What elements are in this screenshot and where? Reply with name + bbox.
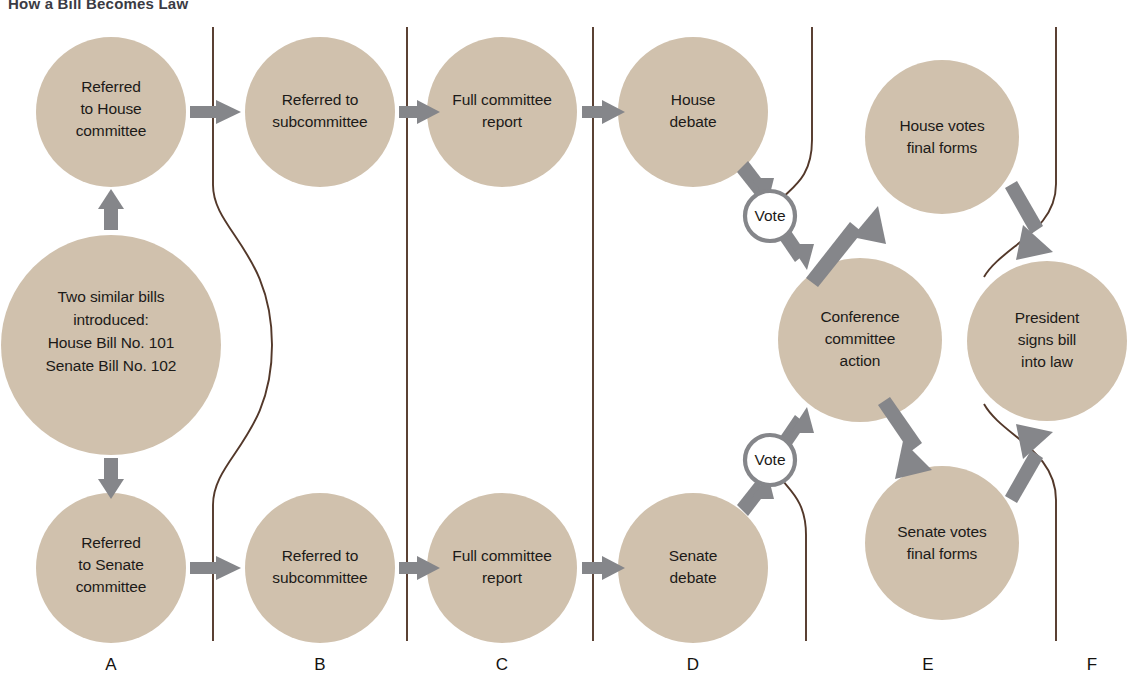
vote-label-house: Vote (754, 207, 785, 224)
label-line: to Senate (78, 556, 143, 573)
node-senate-debate[interactable] (618, 493, 768, 643)
arrow-senate-committee-to-subcommittee (190, 556, 241, 580)
label-line: President (1015, 309, 1080, 326)
label-line: Referred to (282, 91, 358, 108)
arrow-bills-to-senate-committee (98, 458, 124, 499)
arrow-senate-final-to-president (1005, 424, 1053, 503)
label-line: Conference (820, 308, 899, 325)
divider-d-e (772, 27, 812, 213)
stage-label-a: A (105, 655, 117, 674)
node-senate-final-vote[interactable] (865, 466, 1019, 620)
label-line: to House (80, 100, 141, 117)
label-line: debate (670, 569, 717, 586)
stage-label-f: F (1087, 655, 1097, 674)
label-line: Full committee (452, 547, 551, 564)
label-line: Senate (669, 547, 718, 564)
label-line: signs bill (1018, 331, 1076, 348)
label-line: Senate Bill No. 102 (46, 357, 177, 374)
node-house-full-report[interactable] (427, 37, 577, 187)
divider-d-e-lower (772, 463, 806, 641)
label-line: Two similar bills (58, 288, 165, 305)
vote-label-senate: Vote (754, 451, 785, 468)
label-line: subcommittee (272, 113, 367, 130)
label-line: Full committee (452, 91, 551, 108)
page-title: How a Bill Becomes Law (8, 0, 188, 12)
label-line: committee (825, 330, 896, 347)
label-line: committee (76, 122, 147, 139)
label-line: Senate votes (897, 523, 987, 540)
label-line: into law (1021, 353, 1074, 370)
label-president-signs: President signs bill into law (1015, 309, 1080, 370)
label-house-committee: Referred to House committee (76, 78, 147, 139)
node-senate-full-report[interactable] (427, 493, 577, 643)
flowchart-root: How a Bill Becomes Law (0, 0, 1144, 688)
stage-label-c: C (496, 655, 508, 674)
stage-label-b: B (314, 655, 325, 674)
label-line: committee (76, 578, 147, 595)
arrow-conference-to-senate-final (878, 397, 932, 479)
label-line: report (482, 569, 523, 586)
label-line: Referred to (282, 547, 358, 564)
label-line: final forms (907, 545, 978, 562)
stage-label-d: D (687, 655, 699, 674)
stage-label-e: E (922, 655, 933, 674)
label-line: introduced: (73, 311, 149, 328)
label-line: subcommittee (272, 569, 367, 586)
label-line: report (482, 113, 523, 130)
stage-label-group: A B C D E F (105, 655, 1097, 674)
node-house-final-vote[interactable] (865, 60, 1019, 214)
label-senate-committee: Referred to Senate committee (76, 534, 147, 595)
flowchart-canvas: Vote Vote Referred to House committee Tw… (0, 0, 1144, 688)
label-line: final forms (907, 139, 978, 156)
arrow-bills-to-house-committee (98, 189, 124, 230)
node-house-subcommittee[interactable] (245, 37, 395, 187)
label-line: Referred (81, 534, 141, 551)
label-line: House Bill No. 101 (48, 334, 175, 351)
label-line: House votes (899, 117, 984, 134)
node-senate-subcommittee[interactable] (245, 493, 395, 643)
label-line: debate (670, 113, 717, 130)
arrow-house-committee-to-subcommittee (190, 100, 241, 124)
label-line: Referred (81, 78, 141, 95)
label-line: House (671, 91, 715, 108)
label-line: action (840, 352, 881, 369)
